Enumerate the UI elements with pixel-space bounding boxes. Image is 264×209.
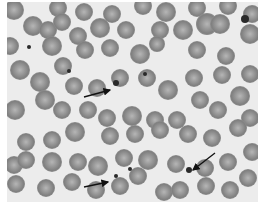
platelet xyxy=(114,174,118,178)
red-blood-cell xyxy=(76,41,94,59)
blood-smear-image xyxy=(0,0,264,209)
red-blood-cell xyxy=(75,3,93,21)
red-blood-cell xyxy=(167,155,185,173)
red-blood-cell xyxy=(185,69,203,87)
red-blood-cell xyxy=(17,151,35,169)
red-blood-cell xyxy=(7,175,25,193)
platelet xyxy=(67,69,71,73)
red-blood-cell xyxy=(117,21,135,39)
red-blood-cell xyxy=(138,69,156,87)
red-blood-cell xyxy=(196,159,214,177)
red-blood-cell xyxy=(221,181,239,199)
red-blood-cell xyxy=(53,101,71,119)
red-blood-cell xyxy=(155,183,173,201)
red-blood-cell xyxy=(168,111,186,129)
red-blood-cell xyxy=(4,0,24,20)
red-blood-cell xyxy=(65,77,83,95)
red-blood-cell xyxy=(79,101,97,119)
red-blood-cell xyxy=(42,152,62,172)
red-blood-cell xyxy=(17,133,35,151)
red-blood-cell xyxy=(188,41,206,59)
red-blood-cell xyxy=(111,177,129,195)
red-blood-cell xyxy=(239,169,257,187)
red-blood-cell xyxy=(197,177,215,195)
red-blood-cell xyxy=(30,72,50,92)
platelet xyxy=(143,72,147,76)
platelet xyxy=(113,80,119,86)
red-blood-cell xyxy=(130,44,150,64)
red-blood-cell xyxy=(1,37,19,55)
red-blood-cell xyxy=(126,125,144,143)
red-blood-cell xyxy=(151,21,169,39)
red-blood-cell xyxy=(229,119,247,137)
red-blood-cell xyxy=(63,173,81,191)
red-blood-cell xyxy=(69,153,87,171)
micrograph-frame xyxy=(0,0,264,209)
red-blood-cell xyxy=(138,150,158,170)
red-blood-cell xyxy=(240,24,260,44)
red-blood-cell xyxy=(101,39,119,57)
red-blood-cell xyxy=(241,65,259,83)
red-blood-cell xyxy=(88,79,106,97)
red-blood-cell xyxy=(219,153,237,171)
red-blood-cell xyxy=(217,47,235,65)
platelet xyxy=(241,15,249,23)
red-blood-cell xyxy=(88,156,108,176)
red-blood-cell xyxy=(90,18,110,38)
red-blood-cell xyxy=(210,14,230,34)
red-blood-cell xyxy=(243,143,261,161)
red-blood-cell xyxy=(171,181,189,199)
red-blood-cell xyxy=(35,90,55,110)
red-blood-cell xyxy=(122,106,142,126)
red-blood-cell xyxy=(10,60,30,80)
red-blood-cell xyxy=(37,179,55,197)
platelet xyxy=(186,167,192,173)
red-blood-cell xyxy=(53,13,71,31)
red-blood-cell xyxy=(43,131,61,149)
platelet xyxy=(27,45,31,49)
red-blood-cell xyxy=(42,36,62,56)
red-blood-cell xyxy=(115,149,133,167)
red-blood-cell xyxy=(213,66,231,84)
red-blood-cell xyxy=(191,91,209,109)
platelet xyxy=(128,167,132,171)
red-blood-cell xyxy=(101,127,119,145)
red-blood-cell xyxy=(158,80,178,100)
red-blood-cell xyxy=(149,36,165,52)
red-blood-cell xyxy=(179,125,197,143)
red-blood-cell xyxy=(156,2,176,22)
red-blood-cell xyxy=(5,100,25,120)
red-blood-cell xyxy=(230,86,250,106)
red-blood-cell xyxy=(173,20,193,40)
red-blood-cell xyxy=(65,122,85,142)
red-blood-cell xyxy=(98,109,116,127)
red-blood-cell xyxy=(209,101,227,119)
red-blood-cell xyxy=(203,129,221,147)
red-blood-cell xyxy=(151,121,169,139)
